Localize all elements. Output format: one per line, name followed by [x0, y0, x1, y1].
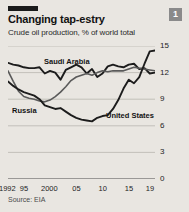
x-tick-label: 95	[20, 184, 28, 193]
y-tick-label: 3	[160, 147, 164, 156]
top-rule	[8, 6, 38, 11]
source-note: Source: EIA	[8, 196, 45, 203]
x-tick-label: 19	[146, 184, 154, 193]
series-label-united-states: United States	[106, 111, 154, 120]
series-label-russia: Russia	[12, 106, 37, 115]
x-tick-label: 05	[72, 184, 80, 193]
chart-subtitle: Crude oil production, % of world total	[8, 28, 135, 37]
x-tick-label: 1992	[0, 184, 16, 193]
chart-card: 1 Changing tap-estry Crude oil productio…	[0, 0, 189, 212]
y-tick-label: 0	[160, 174, 164, 183]
series-label-saudi-arabia: Saudi Arabia	[44, 57, 90, 66]
y-tick-label: 12	[160, 68, 169, 77]
x-tick-label: 15	[125, 184, 133, 193]
y-tick-label: 15	[160, 41, 169, 50]
chart-title: Changing tap-estry	[8, 13, 105, 25]
y-tick-label: 6	[160, 121, 164, 130]
chart-number-badge: 1	[169, 8, 182, 21]
x-tick-label: 2000	[41, 184, 58, 193]
x-tick-label: 10	[99, 184, 107, 193]
y-tick-label: 9	[160, 94, 164, 103]
